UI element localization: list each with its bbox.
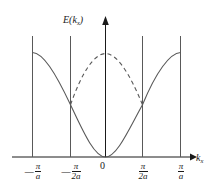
xtick-denominator-pi-over-2a: 2a <box>139 172 148 181</box>
energy-band-figure: E(kx) kx —πa —π2a 0 π2a πa <box>0 0 210 195</box>
lower-band-curve-solid <box>33 53 181 158</box>
y-axis-label-paren: ) <box>80 14 83 25</box>
y-axis-label-main: E(k <box>63 14 77 25</box>
xtick-sign-neg-pi-over-2a: — <box>62 167 71 176</box>
xtick-denominator-pi-over-a: a <box>178 172 185 181</box>
xtick-label-pi-over-2a: π2a <box>130 162 156 182</box>
y-axis <box>102 16 109 157</box>
xtick-sign-neg-pi-over-a: — <box>25 167 34 176</box>
xtick-denominator-neg-pi-over-2a: 2a <box>72 172 81 181</box>
x-axis-label: kx <box>196 152 203 164</box>
y-axis-label: E(kx) <box>63 14 83 26</box>
zone-boundary-lines <box>33 36 181 157</box>
xtick-label-zero: 0 <box>100 160 105 171</box>
xtick-label-pi-over-a: πa <box>169 162 193 182</box>
xtick-denominator-neg-pi-over-a: a <box>35 172 42 181</box>
upper-band-curve-dashed <box>71 54 143 105</box>
x-axis-label-subscript: x <box>200 157 203 164</box>
xtick-label-neg-pi-over-2a: —π2a <box>48 162 94 182</box>
